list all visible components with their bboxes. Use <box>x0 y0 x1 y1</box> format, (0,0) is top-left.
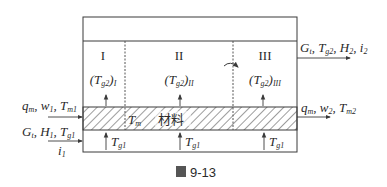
inlet-gas-temp-3: Tg1 <box>269 134 284 150</box>
zone-1-gas-temp: (Tg2)I <box>90 72 117 88</box>
figure-caption: 9-13 <box>190 165 216 180</box>
output-gas-label: Gt, Tg2, H2, i2 <box>300 40 367 56</box>
zone-3-gas-temp: (Tg2)III <box>249 72 281 88</box>
input-material-label: qm, w1, Tm1 <box>22 98 77 114</box>
output-material-label: qm, w2, Tm2 <box>301 100 356 116</box>
material-label: 材料 <box>158 112 184 127</box>
zone-3-label: III <box>259 48 272 63</box>
input-enthalpy-label: i1 <box>58 143 66 159</box>
caption-icon <box>176 166 186 177</box>
flow-curve-arrow <box>224 63 238 67</box>
zone-1-label: I <box>101 48 105 63</box>
input-gas-label: Gt, H1, Tg1 <box>22 124 75 140</box>
zone-2-label: II <box>175 48 184 63</box>
zone-2-gas-temp: (Tg2)II <box>164 72 194 88</box>
dryer-diagram: 材料 Tm I II III (Tg2)I (Tg2)II (Tg2)III T… <box>0 0 387 187</box>
inlet-gas-temp-1: Tg1 <box>111 134 126 150</box>
inlet-gas-temp-2: Tg1 <box>185 134 200 150</box>
